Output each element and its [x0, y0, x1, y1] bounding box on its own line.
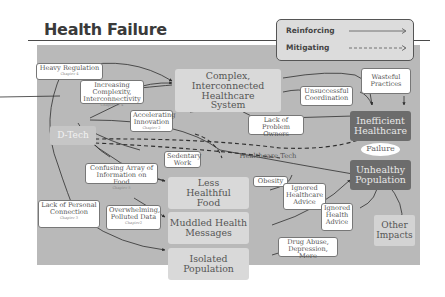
- node-label: Obesity: [258, 177, 283, 185]
- node-muddled-health-messages: Muddled Health Messages: [168, 212, 249, 244]
- node-label: Wasteful Practices: [364, 74, 408, 88]
- node-label: Sedentary Work: [167, 152, 201, 167]
- chapter-ref: Chapter 4: [39, 73, 100, 77]
- node-label: Lack of Personal Connection: [41, 201, 96, 216]
- node-unsuccessful-coordination: Unsuccessful Coordination: [300, 86, 353, 106]
- node-overwhelming-data: Overwhelming, Polluted Data Chapter2: [106, 205, 161, 230]
- chapter-ref: Chapter 2: [133, 127, 170, 131]
- node-d-tech: D-Tech: [50, 126, 96, 145]
- node-label: Complex, Interconnected Healthcare Syste…: [184, 71, 272, 111]
- node-label: Ignored Health Advice: [324, 204, 350, 226]
- node-lack-of-problem-owners: Lack of Problem Owners: [248, 115, 304, 135]
- node-label: Ignored Healthcare Advice: [286, 184, 323, 206]
- node-drug-abuse: Drug Abuse, Depression, More: [278, 237, 338, 257]
- node-label: Unhealthy Population: [353, 165, 409, 185]
- node-label: Unsuccessful Coordination: [304, 87, 348, 102]
- node-complex-healthcare-system: Complex, Interconnected Healthcare Syste…: [175, 69, 281, 112]
- node-inefficient-healthcare: Inefficient Healthcare: [350, 111, 411, 141]
- node-label: Other Impacts: [376, 221, 414, 240]
- node-less-healthful-food: Less Healthful Food: [168, 177, 249, 209]
- node-wasteful-practices: Wasteful Practices: [361, 68, 411, 94]
- chapter-ref: Chapter 3: [41, 217, 97, 221]
- node-accelerating-innovation: Accelerating Innovation Chapter 2: [130, 110, 173, 132]
- node-failure: Failure: [361, 143, 400, 156]
- legend: Reinforcing Mitigating: [276, 19, 414, 61]
- node-ignored-healthcare-advice: Ignored Healthcare Advice: [283, 183, 326, 210]
- node-label: Increasing Complexity, Interconnectivity: [83, 81, 140, 103]
- node-label: Confusing Array of Information on Food: [90, 164, 153, 186]
- node-other-impacts: Other Impacts: [374, 215, 415, 246]
- node-label: Failure: [366, 145, 395, 153]
- node-label: Accelerating Innovation: [133, 111, 175, 126]
- node-label: Lack of Problem Owners: [262, 116, 290, 138]
- node-unhealthy-population: Unhealthy Population: [350, 160, 411, 190]
- node-heavy-regulation: Heavy Regulation Chapter 4: [36, 63, 103, 80]
- node-label: Inefficient Healthcare: [353, 116, 409, 136]
- node-increasing-complexity: Increasing Complexity, Interconnectivity…: [80, 80, 144, 104]
- chapter-ref: Chapter 2, 4: [83, 104, 141, 108]
- node-isolated-population: Isolated Population: [168, 248, 249, 280]
- chapter-ref: Chapter2: [109, 222, 158, 226]
- node-label: Muddled Health Messages: [169, 218, 249, 238]
- legend-arrows-icon: [347, 20, 413, 60]
- node-label: D-Tech: [57, 131, 89, 140]
- node-label: Drug Abuse, Depression, More: [287, 238, 329, 260]
- label-healthcare-tech: Healthcare Tech: [238, 153, 298, 160]
- node-lack-personal-connection: Lack of Personal Connection Chapter 3: [38, 200, 100, 228]
- node-label: Overwhelming, Polluted Data: [109, 206, 160, 221]
- node-label: Isolated Population: [176, 254, 242, 274]
- node-label: Healthcare Tech: [240, 152, 297, 160]
- node-label: Less Healthful Food: [176, 178, 242, 208]
- legend-reinforcing-label: Reinforcing: [286, 26, 335, 35]
- node-label: Heavy Regulation: [40, 64, 99, 72]
- node-ignored-health-advice: Ignored Health Advice: [321, 203, 353, 231]
- legend-mitigating-label: Mitigating: [286, 43, 329, 52]
- node-confusing-array: Confusing Array of Information on Food C…: [85, 163, 158, 184]
- node-sedentary-work: Sedentary Work: [164, 151, 201, 168]
- chapter-ref: Chapter 5: [88, 187, 155, 191]
